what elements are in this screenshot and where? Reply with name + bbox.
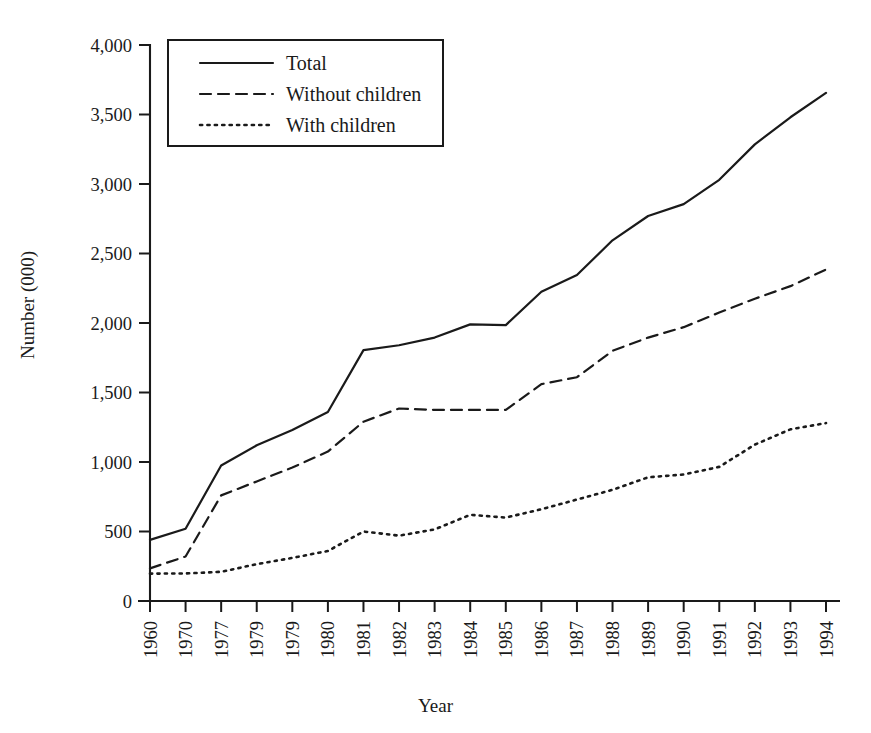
legend-label: Total [286, 52, 327, 74]
x-tick-label: 1977 [212, 621, 232, 658]
x-axis-title: Year [0, 695, 871, 717]
series-line-with-children [150, 423, 826, 574]
chart-legend: TotalWithout childrenWith children [168, 40, 443, 146]
y-axis-title: Number (000) [17, 215, 39, 395]
x-tick-label: 1988 [603, 621, 623, 658]
y-tick-label: 0 [123, 592, 132, 612]
legend-label: Without children [286, 83, 421, 105]
y-axis-ticks: 05001,0001,5002,0002,5003,0003,5004,000 [90, 36, 150, 612]
x-tick-label: 1992 [745, 621, 765, 658]
x-tick-label: 1989 [639, 621, 659, 658]
x-tick-label: 1987 [567, 621, 587, 658]
x-tick-label: 1981 [354, 621, 374, 658]
series-layer [150, 93, 826, 574]
y-tick-label: 3,500 [90, 105, 132, 125]
series-line-without-children [150, 269, 826, 568]
x-tick-label: 1990 [674, 621, 694, 658]
series-line-total [150, 93, 826, 540]
y-tick-label: 2,000 [90, 314, 132, 334]
x-axis-ticks: 1960197019771979197919801981198219831984… [141, 601, 837, 658]
y-tick-label: 3,000 [90, 175, 132, 195]
x-tick-label: 1982 [390, 621, 410, 658]
x-tick-label: 1986 [532, 621, 552, 658]
x-tick-label: 1985 [496, 621, 516, 658]
y-tick-label: 1,000 [90, 453, 132, 473]
x-tick-label: 1979 [247, 621, 267, 658]
x-tick-label: 1984 [461, 621, 481, 658]
chart-canvas: 05001,0001,5002,0002,5003,0003,5004,000 … [0, 0, 871, 733]
x-tick-label: 1994 [817, 621, 837, 658]
x-tick-label: 1980 [318, 621, 338, 658]
x-tick-label: 1979 [283, 621, 303, 658]
x-tick-label: 1991 [710, 621, 730, 658]
x-tick-label: 1970 [176, 621, 196, 658]
y-tick-label: 500 [104, 522, 132, 542]
y-tick-label: 4,000 [90, 36, 132, 56]
legend-label: With children [286, 114, 396, 136]
y-tick-label: 1,500 [90, 383, 132, 403]
x-tick-label: 1983 [425, 621, 445, 658]
y-tick-label: 2,500 [90, 244, 132, 264]
line-chart-figure: 05001,0001,5002,0002,5003,0003,5004,000 … [0, 0, 871, 733]
x-tick-label: 1960 [141, 621, 161, 658]
x-tick-label: 1993 [781, 621, 801, 658]
